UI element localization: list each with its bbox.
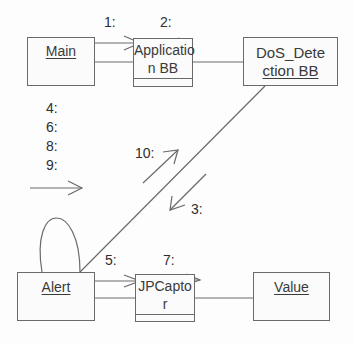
object-alert-label: Alert [18,279,94,296]
object-application-compartment [134,78,192,79]
object-main[interactable]: Main [27,37,95,86]
message-label-5: 5: [105,252,117,268]
object-main-label: Main [28,43,94,60]
object-dos-detection-bb[interactable]: DoS_Dete ction BB [243,37,338,86]
object-jpcaptor-compartment [136,314,194,315]
message-label-8: 8: [46,138,58,154]
object-application-bb[interactable]: Applicatio n BB [133,38,193,87]
object-dos-label-line2: ction BB [244,62,337,79]
object-jpcaptor[interactable]: JPCapto r [135,274,195,322]
object-jpcaptor-label-line2: r [136,296,194,313]
object-application-label-line2: n BB [134,60,192,77]
message-label-10: 10: [135,145,154,161]
message-label-4: 4: [46,100,58,116]
object-value[interactable]: Value [253,272,330,321]
message-label-6: 6: [46,119,58,135]
object-alert[interactable]: Alert [17,272,95,321]
message-label-7: 7: [163,252,175,268]
collaboration-diagram: Main Applicatio n BB DoS_Dete ction BB A… [0,0,354,343]
link-dos-alert [80,86,265,272]
link-alert-self [40,218,80,272]
message-label-9: 9: [46,157,58,173]
object-jpcaptor-label-line1: JPCapto [136,278,194,295]
message-label-1: 1: [104,14,116,30]
message-label-2: 2: [160,14,172,30]
object-application-label-line1: Applicatio [134,42,192,59]
message-label-3: 3: [191,201,203,217]
object-value-label: Value [254,279,329,296]
object-dos-label-line1: DoS_Dete [244,44,337,61]
